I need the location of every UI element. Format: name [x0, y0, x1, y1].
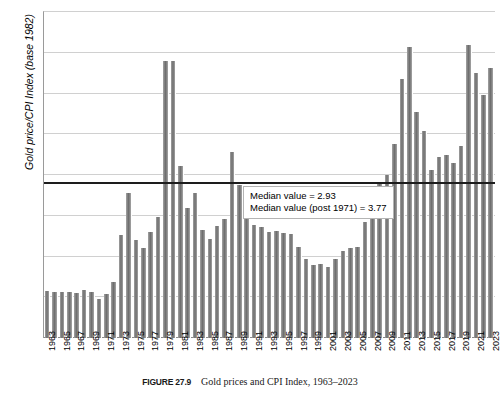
- bar-slot: [421, 12, 428, 338]
- bar-slot: [399, 12, 406, 338]
- bar-slot: [147, 12, 154, 338]
- bar: [429, 170, 435, 338]
- median-post1971-line: Median value (post 1971) = 3.77: [250, 202, 387, 214]
- figure-number: FIGURE 27.9: [142, 377, 191, 387]
- bar: [193, 193, 199, 338]
- bar-slot: [480, 12, 487, 338]
- bar-slot: [103, 12, 110, 338]
- bar-slot: [125, 12, 132, 338]
- bar-slot: [207, 12, 214, 338]
- bar-slot: [281, 12, 288, 338]
- bar-slot: [44, 12, 51, 338]
- bar-slot: [487, 12, 494, 338]
- bar-slot: [244, 12, 251, 338]
- bar-slot: [170, 12, 177, 338]
- bar-slot: [465, 12, 472, 338]
- bar-slot: [354, 12, 361, 338]
- bar: [326, 267, 332, 338]
- bar-slot: [140, 12, 147, 338]
- bar: [119, 235, 125, 338]
- bar-slot: [184, 12, 191, 338]
- bar: [126, 193, 132, 338]
- bar-slot: [236, 12, 243, 338]
- bar-slot: [428, 12, 435, 338]
- bar-slot: [347, 12, 354, 338]
- bar-slot: [377, 12, 384, 338]
- bar: [311, 265, 317, 338]
- bar: [148, 232, 154, 338]
- bar: [171, 61, 177, 338]
- x-tick-label: 2023: [491, 331, 500, 351]
- figure-caption: FIGURE 27.9Gold prices and CPI Index, 19…: [0, 376, 500, 394]
- bar: [348, 248, 354, 338]
- bar: [459, 146, 465, 338]
- bar: [267, 232, 273, 338]
- bar: [156, 217, 162, 338]
- bar: [222, 219, 228, 338]
- figure-container: Gold price/CPI Index (base 1982) Median …: [0, 0, 500, 394]
- bar-slot: [288, 12, 295, 338]
- bar: [274, 231, 280, 338]
- bar-slot: [317, 12, 324, 338]
- bar-slot: [258, 12, 265, 338]
- bar: [407, 47, 413, 338]
- bar: [281, 233, 287, 338]
- bar-slot: [118, 12, 125, 338]
- bar: [185, 208, 191, 338]
- bar-slot: [59, 12, 66, 338]
- bar: [134, 240, 140, 338]
- bar-slot: [251, 12, 258, 338]
- bar: [488, 68, 494, 338]
- y-axis-title: Gold price/CPI Index (base 1982): [23, 0, 35, 217]
- bar-slot: [266, 12, 273, 338]
- bar-slot: [295, 12, 302, 338]
- bar-slot: [81, 12, 88, 338]
- bar: [451, 163, 457, 338]
- bar-slot: [133, 12, 140, 338]
- bar: [363, 222, 369, 338]
- bar: [163, 61, 169, 338]
- bar-slot: [214, 12, 221, 338]
- bar: [296, 247, 302, 338]
- bar: [141, 248, 147, 338]
- bar-slot: [88, 12, 95, 338]
- bar-slot: [369, 12, 376, 338]
- bar: [370, 212, 376, 338]
- bar-slot: [229, 12, 236, 338]
- bar: [111, 282, 117, 338]
- bar-slot: [391, 12, 398, 338]
- bar: [237, 185, 243, 338]
- figure-title: Gold prices and CPI Index, 1963–2023: [201, 376, 358, 387]
- bar: [304, 259, 310, 338]
- bar: [252, 225, 258, 338]
- bar-slot: [450, 12, 457, 338]
- bar-slot: [340, 12, 347, 338]
- bar-slot: [192, 12, 199, 338]
- bar-slot: [162, 12, 169, 338]
- bar: [333, 259, 339, 338]
- bar-slot: [74, 12, 81, 338]
- bar: [178, 166, 184, 338]
- bar-slot: [155, 12, 162, 338]
- bar-slot: [325, 12, 332, 338]
- bar: [466, 45, 472, 338]
- bar: [230, 152, 236, 338]
- bar: [200, 230, 206, 338]
- bar: [474, 73, 480, 338]
- bar: [392, 144, 398, 338]
- bar-slot: [443, 12, 450, 338]
- bar-slot: [111, 12, 118, 338]
- bar: [422, 131, 428, 338]
- bar: [208, 239, 214, 338]
- bar-slot: [177, 12, 184, 338]
- bar-slot: [414, 12, 421, 338]
- bar-slot: [406, 12, 413, 338]
- bar-slot: [66, 12, 73, 338]
- bar: [289, 234, 295, 338]
- bar-slot: [199, 12, 206, 338]
- bar-slot: [473, 12, 480, 338]
- bar-slot: [436, 12, 443, 338]
- bar: [244, 205, 250, 338]
- bar: [414, 112, 420, 338]
- bar: [215, 226, 221, 338]
